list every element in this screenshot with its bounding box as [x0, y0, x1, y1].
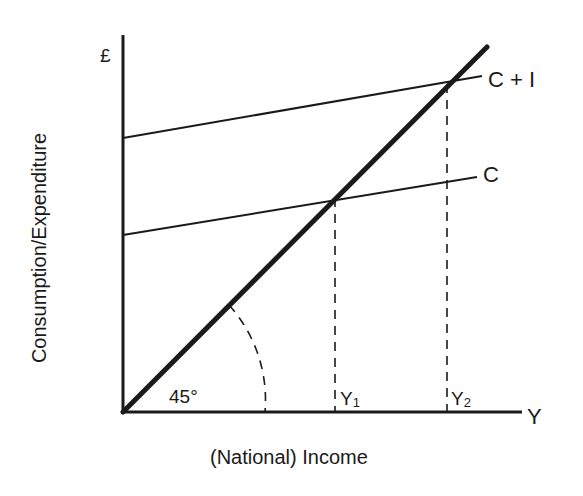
- keynesian-cross-chart: £ Y C + I C 45° Y1 Y2: [0, 0, 583, 496]
- 45-degree-line: [123, 47, 487, 412]
- x-axis-symbol: Y: [527, 404, 542, 429]
- y1-label: Y1: [340, 388, 360, 410]
- y-axis-label: Consumption/Expenditure: [28, 133, 51, 363]
- c-line: [123, 177, 477, 235]
- y2-label: Y2: [451, 388, 471, 410]
- angle-label: 45°: [169, 386, 198, 407]
- x-axis-label: (National) Income: [210, 446, 368, 469]
- c-plus-i-label: C + I: [488, 67, 535, 92]
- angle-arc: [229, 305, 266, 412]
- pound-symbol: £: [100, 45, 111, 66]
- c-label: C: [483, 162, 499, 187]
